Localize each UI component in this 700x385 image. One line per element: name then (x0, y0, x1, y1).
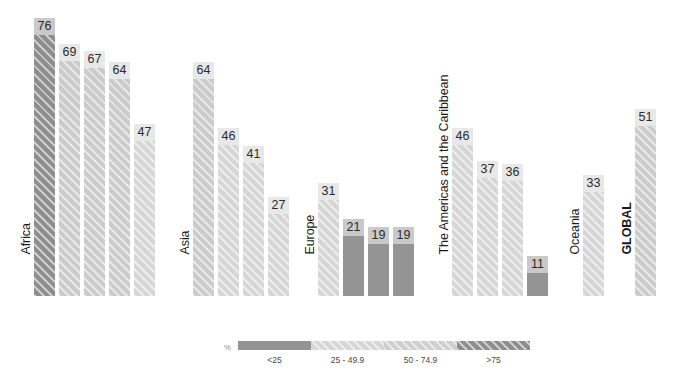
legend-unit-label: % (224, 343, 231, 352)
bar-hatch-pattern (243, 146, 264, 296)
bar-value-label: 46 (452, 128, 473, 145)
legend-swatch[interactable] (238, 341, 311, 350)
legend-color-bar (238, 341, 530, 350)
bar[interactable] (59, 44, 80, 296)
bar-group-africa: Africa76MiddleAfrica69EasternAfrica67Wes… (34, 0, 159, 296)
bar-value-label: 27 (268, 197, 289, 214)
region-label: GLOBAL (621, 202, 634, 254)
bar-hatch-pattern (218, 128, 239, 296)
legend-label: >75 (457, 353, 530, 367)
bar-hatch-pattern (502, 164, 523, 296)
bar-value-label: 11 (527, 256, 548, 273)
legend-label: 25 - 49.9 (311, 353, 384, 367)
bar[interactable] (477, 161, 498, 296)
bar-value-label: 76 (34, 18, 55, 35)
bar[interactable] (583, 175, 604, 296)
legend-swatch-hatch (457, 341, 530, 350)
bar[interactable] (134, 124, 155, 296)
bar[interactable] (34, 18, 55, 296)
bar-hatch-pattern (34, 18, 55, 296)
bar-hatch-pattern (109, 62, 130, 296)
bar-group-europe: Europe31EasternEurope21SouthernEurope19N… (318, 0, 418, 296)
bar[interactable] (318, 183, 339, 296)
bar-hatch-pattern (59, 44, 80, 296)
bar-hatch-pattern (477, 161, 498, 296)
bar-hatch-pattern (635, 109, 656, 296)
bar[interactable] (84, 51, 105, 296)
chart-legend: % <2525 - 49.950 - 74.9>75 (0, 341, 700, 381)
bar-value-label: 51 (635, 109, 656, 126)
bar-value-label: 64 (193, 62, 214, 79)
legend-swatch[interactable] (311, 341, 384, 350)
bar-value-label: 41 (243, 146, 264, 163)
legend-swatch[interactable] (384, 341, 457, 350)
bar-value-label: 19 (393, 227, 414, 244)
bar-value-label: 67 (84, 51, 105, 68)
bar-value-label: 46 (218, 128, 239, 145)
plot-area: Africa76MiddleAfrica69EasternAfrica67Wes… (0, 0, 700, 296)
bar-value-label: 36 (502, 164, 523, 181)
bar-value-label: 21 (343, 219, 364, 236)
bar-group-oceania: Oceania33Oceania (583, 0, 608, 296)
bar[interactable] (193, 62, 214, 296)
bar[interactable] (109, 62, 130, 296)
bar-hatch-pattern (134, 124, 155, 296)
region-label: Oceania (569, 208, 582, 254)
bar-value-label: 31 (318, 183, 339, 200)
bar-hatch-pattern (193, 62, 214, 296)
bar[interactable] (243, 146, 264, 296)
bar-value-label: 19 (368, 227, 389, 244)
bar-group-global: GLOBAL51GLOBAL (635, 0, 660, 296)
region-label: Europe (304, 214, 317, 254)
chart-root: Africa76MiddleAfrica69EasternAfrica67Wes… (0, 0, 700, 385)
bar-value-label: 69 (59, 44, 80, 61)
bar-value-label: 47 (134, 124, 155, 141)
bar-hatch-pattern (84, 51, 105, 296)
bar-hatch-pattern (452, 128, 473, 296)
legend-swatch-hatch (311, 341, 384, 350)
bar-value-label: 64 (109, 62, 130, 79)
legend-label: 50 - 74.9 (384, 353, 457, 367)
bar[interactable] (502, 164, 523, 296)
region-label: Asia (179, 230, 192, 254)
legend-swatch-hatch (384, 341, 457, 350)
bar-value-label: 33 (583, 175, 604, 192)
bar-value-label: 37 (477, 161, 498, 178)
bar[interactable] (635, 109, 656, 296)
region-label: The Americas and the Caribbean (438, 74, 451, 254)
bar-hatch-pattern (583, 175, 604, 296)
bar-hatch-pattern (318, 183, 339, 296)
region-label: Africa (20, 223, 33, 254)
bar[interactable] (218, 128, 239, 296)
legend-label: <25 (238, 353, 311, 367)
legend-tick-labels: <2525 - 49.950 - 74.9>75 (238, 353, 530, 367)
bar-group-asia: Asia64South-Central Asia46South-Eastern … (193, 0, 293, 296)
legend-swatch[interactable] (457, 341, 530, 350)
bar[interactable] (452, 128, 473, 296)
bar-group-the-americas-and-the-caribbean: The Americas and the Caribbean46Caribbea… (452, 0, 552, 296)
